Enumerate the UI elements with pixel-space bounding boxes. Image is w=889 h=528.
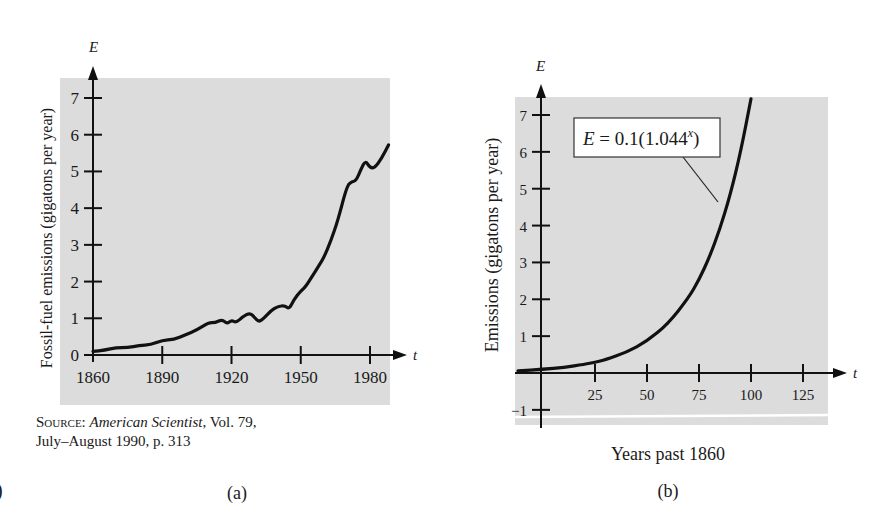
chart-b-panel-label: (b) [658, 481, 679, 502]
y-tick-label: 4 [520, 219, 528, 235]
x-tick-label: 75 [692, 387, 707, 403]
chart-a-x-letter: t [413, 347, 418, 363]
chart-b-x-label: Years past 1860 [611, 444, 725, 464]
y-tick-label: 2 [71, 273, 80, 292]
chart-a-y-label: Fossil-fuel emissions (gigatons per year… [38, 108, 56, 368]
chart-b-x-letter: t [853, 365, 858, 381]
chart-b-y-arrow-icon [536, 84, 546, 98]
source-journal: American Scientist [90, 414, 203, 430]
stray-edge-glyph: ) [0, 479, 3, 502]
source-volume: , Vol. 79, [202, 414, 256, 430]
y-tick-label: 4 [71, 199, 80, 218]
chart-b-equation: E = 0.1(1.044x) [582, 126, 699, 150]
source-line-2: July–August 1990, p. 313 [36, 432, 256, 451]
x-tick-label: 1980 [353, 368, 387, 387]
y-tick-label: 3 [520, 255, 528, 271]
x-tick-label: 50 [640, 387, 655, 403]
chart-b: −11234567 255075100125 E = 0.1(1.044x) E… [482, 58, 858, 502]
y-tick-label: −1 [511, 403, 527, 419]
x-tick-label: 25 [588, 387, 603, 403]
chart-b-y-label: Emissions (gigatons per year) [482, 138, 503, 352]
y-tick-label: 6 [71, 126, 80, 145]
chart-a-y-letter: E [88, 39, 98, 55]
source-prefix: Source: [36, 414, 90, 430]
chart-b-y-letter: E [535, 58, 545, 74]
x-tick-label: 1860 [76, 368, 110, 387]
y-tick-label: 6 [520, 145, 528, 161]
x-tick-label: 1920 [215, 368, 249, 387]
y-tick-label: 1 [71, 309, 80, 328]
chart-a-panel-label: (a) [227, 483, 247, 504]
chart-b-x-arrow-icon [833, 368, 847, 378]
chart-a-y-arrow-icon [88, 66, 98, 80]
y-tick-label: 0 [71, 346, 80, 365]
chart-a-x-arrow-icon [393, 350, 407, 360]
source-line-1: Source: American Scientist, Vol. 79, [36, 413, 256, 432]
x-tick-label: 1890 [145, 368, 179, 387]
x-tick-label: 100 [740, 387, 763, 403]
y-tick-label: 5 [71, 162, 80, 181]
y-tick-label: 2 [520, 292, 528, 308]
y-tick-label: 7 [520, 108, 528, 124]
y-tick-label: 5 [520, 182, 528, 198]
x-tick-label: 125 [792, 387, 815, 403]
x-tick-label: 1950 [284, 368, 318, 387]
y-tick-label: 7 [71, 89, 80, 108]
chart-a-source-note: Source: American Scientist, Vol. 79, Jul… [36, 413, 256, 451]
y-tick-label: 1 [520, 329, 528, 345]
y-tick-label: 3 [71, 236, 80, 255]
